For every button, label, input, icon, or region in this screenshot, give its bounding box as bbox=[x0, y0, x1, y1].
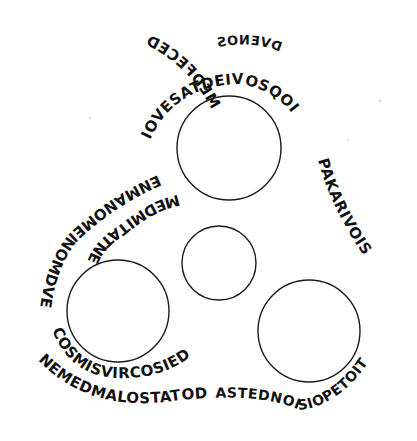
duenos-inscription-drawing: DVENOS MEDFECED IOVESATDEIVOSQOI PAKARIV… bbox=[0, 0, 417, 441]
scan-speck bbox=[379, 100, 381, 102]
inscription-left-outer: ENMANOMEINOMDVENOI bbox=[0, 0, 164, 310]
inscription-top-word: DVENOS bbox=[215, 32, 284, 54]
top-vessel-opening bbox=[177, 96, 281, 200]
scan-speck bbox=[347, 139, 349, 141]
right-vessel-opening bbox=[258, 280, 360, 382]
left-vessel-opening bbox=[67, 260, 169, 362]
scan-speck bbox=[89, 117, 91, 119]
center-small-vessel-opening bbox=[182, 226, 256, 300]
inscription-right-band: PAKARIVOIS bbox=[314, 156, 376, 258]
